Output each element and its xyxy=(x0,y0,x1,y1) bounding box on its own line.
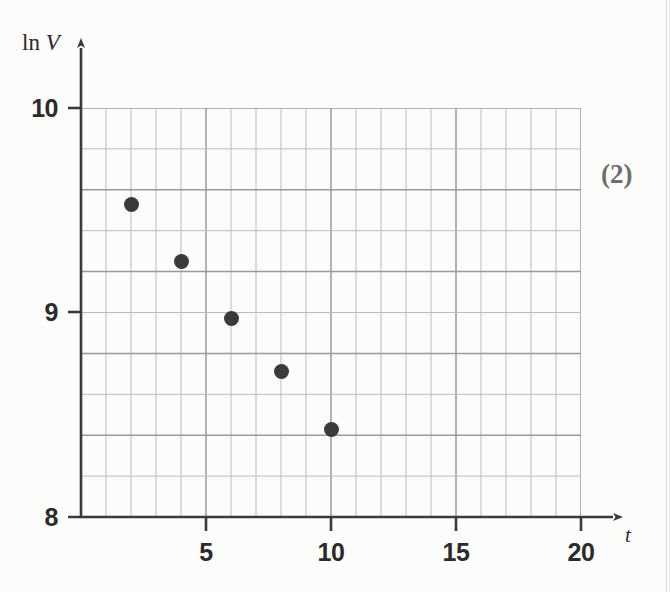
y-axis-title-prefix: ln xyxy=(22,30,40,55)
y-tick-label-8: 8 xyxy=(18,503,58,532)
scatter-plot-figure: 10 9 8 5 10 15 20 ln V t (2) xyxy=(0,0,670,592)
x-tick-label-5: 5 xyxy=(176,538,236,567)
y-tick-label-10: 10 xyxy=(18,94,58,123)
x-tick-label-10: 10 xyxy=(301,538,361,567)
x-tick-label-20: 20 xyxy=(551,538,611,567)
marks-annotation: (2) xyxy=(601,159,632,190)
y-axis-title-variable: V xyxy=(46,30,60,55)
x-axis-title: t xyxy=(625,523,631,548)
y-tick-label-9: 9 xyxy=(18,298,58,327)
y-axis-title: ln V xyxy=(22,30,60,56)
x-tick-label-15: 15 xyxy=(426,538,486,567)
axes xyxy=(0,0,670,592)
